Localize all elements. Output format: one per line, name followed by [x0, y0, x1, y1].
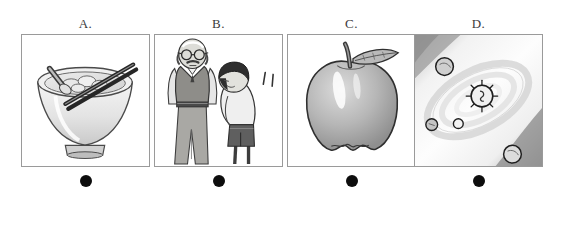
- bowl-of-soup-illustration: [22, 35, 149, 166]
- option-a-bullet[interactable]: [80, 175, 92, 187]
- elderly-man-and-bowing-child-illustration: [155, 35, 282, 166]
- option-d-image-panel[interactable]: [414, 34, 543, 167]
- option-b-label: B.: [154, 14, 283, 34]
- option-d-label: D.: [414, 14, 543, 34]
- option-d[interactable]: D.: [414, 14, 543, 195]
- option-c-bullet-wrap[interactable]: [287, 167, 416, 195]
- option-b-bullet-wrap[interactable]: [154, 167, 283, 195]
- option-a-bullet-wrap[interactable]: [21, 167, 150, 195]
- option-c-label: C.: [287, 14, 416, 34]
- option-d-bullet[interactable]: [473, 175, 485, 187]
- apple-illustration: [288, 35, 415, 166]
- option-c-image-panel[interactable]: [287, 34, 416, 167]
- option-c[interactable]: C.: [287, 14, 416, 195]
- solar-system-illustration: [415, 35, 542, 166]
- option-b-image-panel[interactable]: [154, 34, 283, 167]
- option-a-image-panel[interactable]: [21, 34, 150, 167]
- option-c-bullet[interactable]: [346, 175, 358, 187]
- option-a-label: A.: [21, 14, 150, 34]
- option-a[interactable]: A.: [21, 14, 150, 195]
- option-d-bullet-wrap[interactable]: [414, 167, 543, 195]
- option-b-bullet[interactable]: [213, 175, 225, 187]
- option-b[interactable]: B.: [154, 14, 283, 195]
- answer-options-row: A.: [0, 0, 561, 227]
